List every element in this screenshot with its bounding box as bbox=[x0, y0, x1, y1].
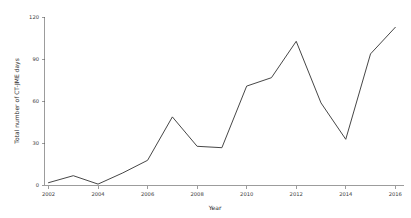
x-tick-label: 2016 bbox=[389, 191, 402, 197]
y-tick-label: 30 bbox=[32, 140, 39, 146]
x-axis-title: Year bbox=[208, 204, 222, 211]
y-tick-label: 60 bbox=[32, 98, 39, 104]
chart-figure: 0 30 60 90 120 2002 2004 2006 2008 2010 … bbox=[0, 0, 411, 218]
y-tick-label: 0 bbox=[36, 182, 39, 188]
x-tick-label: 2010 bbox=[240, 191, 253, 197]
y-tick-label: 90 bbox=[32, 56, 39, 62]
line-chart-canvas: 0 30 60 90 120 2002 2004 2006 2008 2010 … bbox=[0, 0, 411, 218]
y-tick-label: 120 bbox=[29, 14, 39, 20]
x-tick-label: 2004 bbox=[91, 191, 105, 197]
x-tick-label: 2002 bbox=[42, 191, 55, 197]
y-axis-title: Total number of CT-JME days bbox=[13, 58, 21, 145]
x-tick-label: 2014 bbox=[339, 191, 353, 197]
x-tick-label: 2008 bbox=[190, 191, 203, 197]
x-tick-label: 2006 bbox=[141, 191, 154, 197]
x-tick-label: 2012 bbox=[290, 191, 303, 197]
